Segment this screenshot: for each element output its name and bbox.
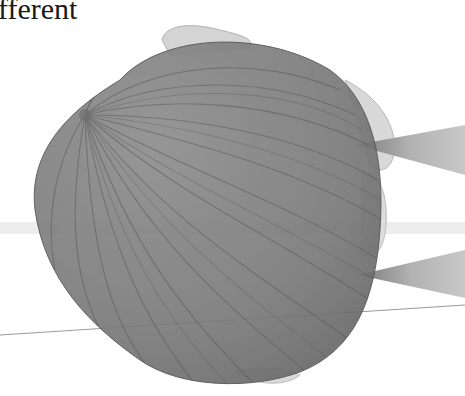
head-top-view [34,40,382,392]
head-illustration [0,0,465,396]
